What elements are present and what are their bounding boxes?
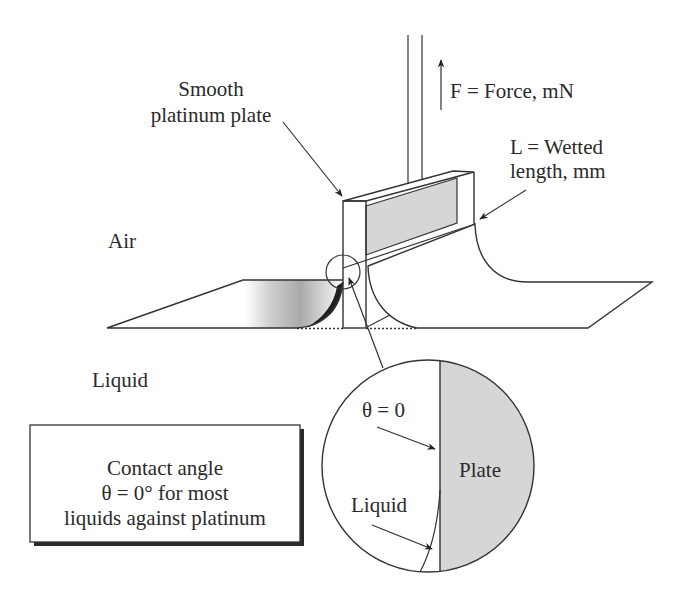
note-line-2: θ = 0° for most <box>101 481 228 505</box>
force-label: F = Force, mN <box>450 79 574 103</box>
contact-angle-note-box: Contact angle θ = 0° for most liquids ag… <box>30 425 304 546</box>
liquid-label: Liquid <box>92 368 148 392</box>
plate-suspension-rods <box>408 35 422 184</box>
note-line-3: liquids against platinum <box>64 506 266 530</box>
wetted-length-line-2: length, mm <box>510 159 606 183</box>
liquid-arrow <box>372 525 432 549</box>
air-label: Air <box>108 229 136 253</box>
wilhelmy-plate-diagram: θ = 0 Plate Liquid Contact angle θ = 0° … <box>0 0 684 599</box>
detail-view-circle: θ = 0 Plate Liquid <box>322 350 550 590</box>
theta-arrow <box>377 427 435 449</box>
wetted-length-line-1: L = Wetted <box>510 135 603 159</box>
plate-callout-arrow <box>283 122 342 196</box>
plate-label-line-2: platinum plate <box>151 103 272 127</box>
detail-theta-label: θ = 0 <box>362 398 405 422</box>
left-meniscus <box>107 280 343 328</box>
detail-liquid-label: Liquid <box>351 493 407 517</box>
note-line-1: Contact angle <box>107 456 223 480</box>
plate-label-line-1: Smooth <box>178 77 244 101</box>
liquid-meniscus-curve <box>420 490 440 572</box>
detail-plate-label: Plate <box>459 458 501 482</box>
wetted-length-callout-arrow <box>480 190 526 219</box>
